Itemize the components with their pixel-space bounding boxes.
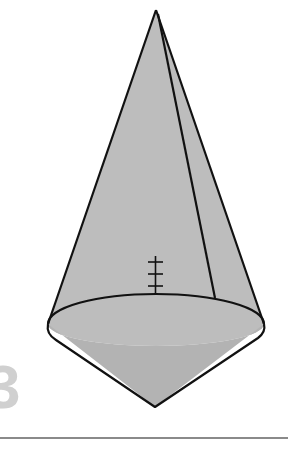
cone-diagram <box>0 0 288 456</box>
upper-cone-surface <box>48 10 264 346</box>
